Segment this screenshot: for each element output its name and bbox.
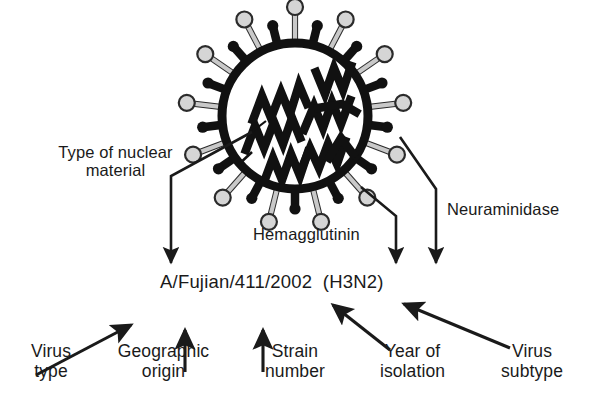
neuraminidase-spike-head — [351, 41, 362, 52]
neuraminidase-spike-head — [228, 41, 239, 52]
neuraminidase-spike-head — [312, 20, 323, 31]
hemagglutinin-spike-head — [197, 46, 213, 62]
hemagglutinin-spike-stalk — [210, 57, 235, 74]
label-year-of-isolation: Year of isolation — [355, 342, 470, 381]
label-type-of-nuclear-material: Type of nuclear material — [28, 143, 203, 180]
neuraminidase-spike-head — [333, 193, 344, 204]
hemagglutinin-spike-head — [236, 11, 252, 27]
neuraminidase-spike-head — [289, 203, 300, 214]
neuraminidase-spike-head — [382, 122, 393, 133]
label-strain-number: Strain number — [240, 342, 350, 381]
hemagglutinin-spike-stalk — [355, 57, 380, 74]
hemagglutinin-spike-head — [389, 147, 405, 163]
neuraminidase-spike-head — [376, 77, 387, 88]
hemagglutinin-spike-head — [179, 95, 195, 111]
neuraminidase-spike-head — [202, 77, 213, 88]
neuraminidase-spike-head — [246, 193, 257, 204]
hemagglutinin-spike-head — [377, 46, 393, 62]
label-hemagglutinin: Hemagglutinin — [253, 225, 360, 243]
hemagglutinin-spike-stalk — [227, 171, 247, 193]
label-geographic-origin: Geographic origin — [96, 342, 231, 381]
hemagglutinin-spike-head — [215, 190, 231, 206]
neuraminidase-spike-head — [267, 20, 278, 31]
diagram-canvas: Type of nuclear material Hemagglutinin N… — [0, 0, 600, 407]
neuraminidase-spike-head — [197, 122, 208, 133]
label-neuraminidase: Neuraminidase — [447, 200, 559, 218]
virion-illustration — [179, 0, 411, 230]
hemagglutinin-spike-stalk — [363, 142, 391, 153]
hemagglutinin-spike-head — [395, 95, 411, 111]
hemagglutinin-spike-stalk — [343, 171, 363, 193]
hemagglutinin-spike-head — [287, 0, 303, 15]
neuraminidase-spike-head — [366, 163, 377, 174]
label-virus-subtype: Virus subtype — [472, 342, 592, 381]
hemagglutinin-spike-head — [338, 11, 354, 27]
strain-name-text: A/Fujian/411/2002 (H3N2) — [160, 272, 384, 293]
neuraminidase-spike-head — [213, 163, 224, 174]
label-virus-type: Virus type — [5, 342, 97, 381]
